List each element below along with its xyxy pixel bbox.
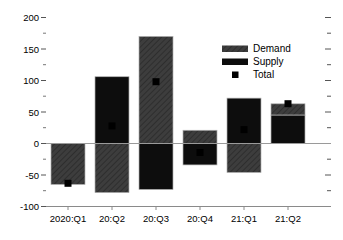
legend-label-demand: Demand — [253, 43, 291, 54]
chart-container: 200 150 100 50 0 -50 -100 — [0, 0, 343, 240]
bar-demand — [51, 144, 85, 185]
y-tick-label: 50 — [28, 107, 39, 118]
x-tick-label: 20:Q3 — [143, 213, 169, 224]
x-tick-label: 21:Q2 — [275, 213, 301, 224]
x-tick-label: 21:Q1 — [231, 213, 257, 224]
y-tick-label: 200 — [23, 12, 39, 23]
y-tick-label: 100 — [23, 75, 39, 86]
y-tick-label: 150 — [23, 44, 39, 55]
bar-group-2020q1 — [51, 144, 85, 185]
legend-swatch-total — [232, 72, 239, 79]
bar-supply — [271, 115, 305, 143]
bar-demand — [227, 144, 261, 173]
x-tick-label: 2020:Q1 — [50, 213, 86, 224]
x-tick-label: 20:Q4 — [187, 213, 213, 224]
bar-demand — [183, 130, 217, 143]
legend-swatch-demand — [222, 46, 248, 53]
bar-chart: 200 150 100 50 0 -50 -100 — [0, 0, 343, 240]
bar-supply — [95, 77, 129, 144]
x-tick-label: 20:Q2 — [99, 213, 125, 224]
y-tick-label: -100 — [20, 201, 39, 212]
bar-group-20q3 — [139, 36, 173, 189]
total-marker — [109, 122, 116, 129]
bar-demand — [139, 36, 173, 143]
legend-swatch-supply — [222, 59, 248, 66]
bar-group-20q4 — [183, 130, 217, 165]
total-marker — [197, 149, 204, 156]
bar-group-21q2 — [271, 104, 305, 144]
y-tick-label: -50 — [25, 170, 39, 181]
total-marker — [153, 78, 160, 85]
bar-demand — [95, 144, 129, 193]
bar-group-20q2 — [95, 77, 129, 193]
legend-label-total: Total — [253, 69, 274, 80]
total-marker — [241, 126, 248, 133]
bar-supply — [227, 98, 261, 143]
bar-supply — [139, 144, 173, 190]
legend-label-supply: Supply — [253, 56, 284, 67]
total-marker — [65, 180, 72, 187]
y-tick-label: 0 — [34, 138, 39, 149]
bar-group-21q1 — [227, 98, 261, 172]
total-marker — [285, 100, 292, 107]
